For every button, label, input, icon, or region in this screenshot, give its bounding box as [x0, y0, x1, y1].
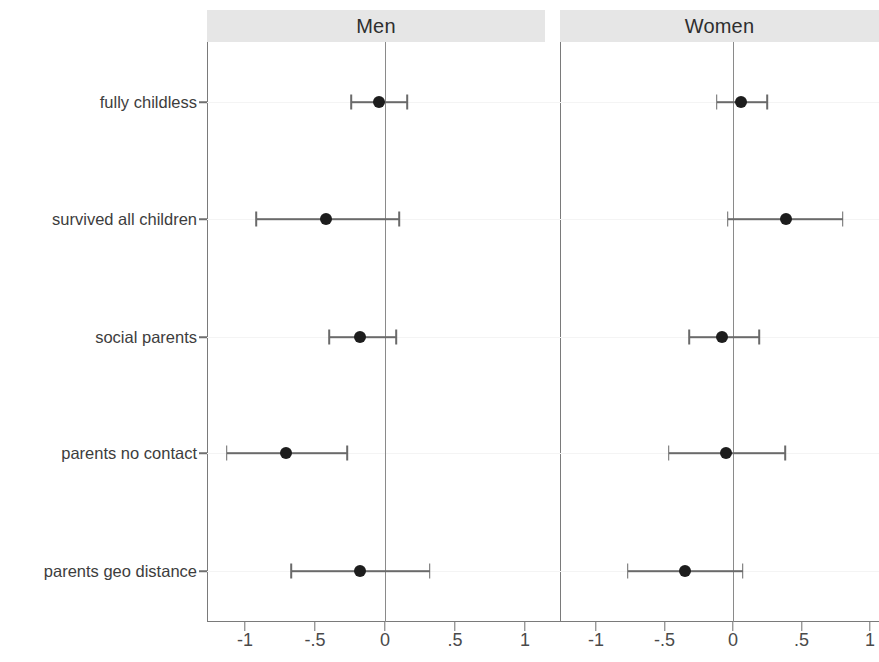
ci-lower-cap: [627, 564, 629, 579]
ci-upper-cap: [398, 212, 400, 227]
category-label-parents-geo-distance: parents geo distance: [44, 562, 197, 581]
ci-upper-cap: [758, 330, 760, 345]
ci-upper-cap: [784, 446, 786, 461]
category-axis-tick: [199, 101, 207, 103]
category-axis-tick: [199, 218, 207, 220]
forest-plot-figure: fully childlesssurvived all childrensoci…: [0, 0, 879, 662]
category-axis-tick: [199, 452, 207, 454]
ci-lower-cap: [688, 330, 690, 345]
x-axis-tick-label: -.5: [654, 630, 675, 651]
x-axis-tick-label: -1: [588, 630, 604, 651]
x-axis-tick-label: 1: [865, 630, 875, 651]
point-estimate-marker: [354, 565, 366, 577]
point-estimate-marker: [373, 96, 385, 108]
ci-lower-cap: [716, 95, 718, 110]
point-estimate-marker: [735, 96, 747, 108]
zero-reference-line-women: [733, 42, 734, 622]
x-axis-tick-label: -.5: [304, 630, 325, 651]
category-axis-tick: [199, 570, 207, 572]
point-estimate-marker: [679, 565, 691, 577]
ci-lower-cap: [226, 446, 228, 461]
ci-upper-cap: [429, 564, 431, 579]
point-estimate-marker: [720, 447, 732, 459]
ci-upper-cap: [395, 330, 397, 345]
ci-upper-cap: [842, 212, 844, 227]
category-label-social-parents: social parents: [95, 328, 197, 347]
ci-lower-cap: [328, 330, 330, 345]
x-axis-tick-label: .5: [447, 630, 462, 651]
zero-reference-line-men: [385, 42, 386, 622]
panel-header-women: Women: [560, 10, 879, 42]
ci-lower-cap: [727, 212, 729, 227]
x-axis-tick-label: 1: [520, 630, 530, 651]
category-axis-tick: [199, 336, 207, 338]
point-estimate-marker: [780, 213, 792, 225]
x-axis-tick-label: .5: [794, 630, 809, 651]
ci-upper-cap: [742, 564, 744, 579]
ci-lower-cap: [668, 446, 670, 461]
panel-header-men: Men: [207, 10, 545, 42]
panel-frame-men: [207, 42, 560, 622]
ci-lower-cap: [255, 212, 257, 227]
ci-lower-cap: [351, 95, 353, 110]
ci-upper-cap: [407, 95, 409, 110]
category-label-parents-no-contact: parents no contact: [61, 444, 197, 463]
point-estimate-marker: [354, 331, 366, 343]
ci-upper-cap: [346, 446, 348, 461]
category-label-survived-all-children: survived all children: [52, 210, 197, 229]
point-estimate-marker: [320, 213, 332, 225]
point-estimate-marker: [716, 331, 728, 343]
x-axis-tick-label: -1: [237, 630, 253, 651]
category-label-fully-childless: fully childless: [100, 93, 197, 112]
point-estimate-marker: [280, 447, 292, 459]
ci-lower-cap: [290, 564, 292, 579]
x-axis-tick-label: 0: [380, 630, 390, 651]
ci-upper-cap: [766, 95, 768, 110]
x-axis-tick-label: 0: [728, 630, 738, 651]
